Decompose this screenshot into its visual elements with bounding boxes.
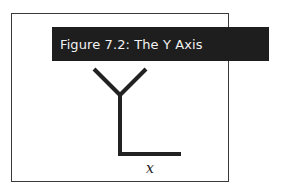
y-axis-diagram xyxy=(0,0,284,196)
y-right-arm xyxy=(120,69,146,95)
x-axis-label: x xyxy=(146,160,154,176)
y-left-arm xyxy=(94,69,120,95)
